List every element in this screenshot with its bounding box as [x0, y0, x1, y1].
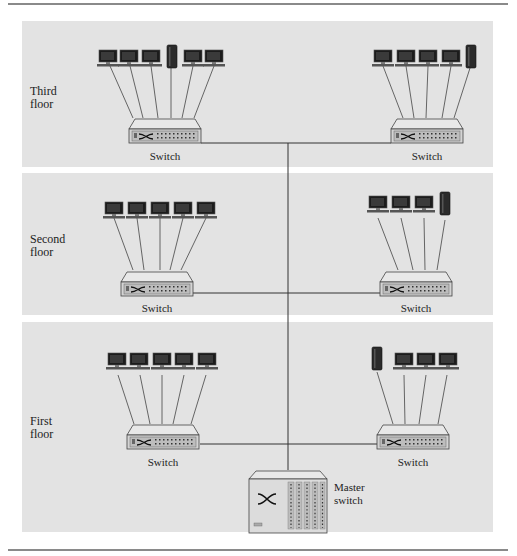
first-floor-label: First floor [30, 415, 53, 441]
network-diagram [0, 0, 517, 556]
third-right-cluster [372, 45, 476, 143]
first-left-cluster [106, 353, 218, 449]
switch-label-second-right: Switch [386, 302, 446, 314]
switch-label-second-left: Switch [127, 302, 187, 314]
third-left-cluster [97, 45, 225, 143]
second-right-cluster [367, 192, 452, 296]
switch-label-first-right: Switch [383, 456, 443, 468]
master-switch-label: Master switch [334, 481, 365, 507]
switch-label-third-right: Switch [397, 150, 457, 162]
switch-label-first-left: Switch [133, 456, 193, 468]
backbone-links [190, 143, 391, 470]
switch-label-third-left: Switch [135, 150, 195, 162]
second-floor-label: Second floor [30, 233, 65, 259]
master-switch-device [249, 471, 327, 533]
third-floor-label: Third floor [30, 85, 57, 111]
second-left-cluster [103, 202, 217, 296]
first-right-cluster [372, 347, 459, 449]
